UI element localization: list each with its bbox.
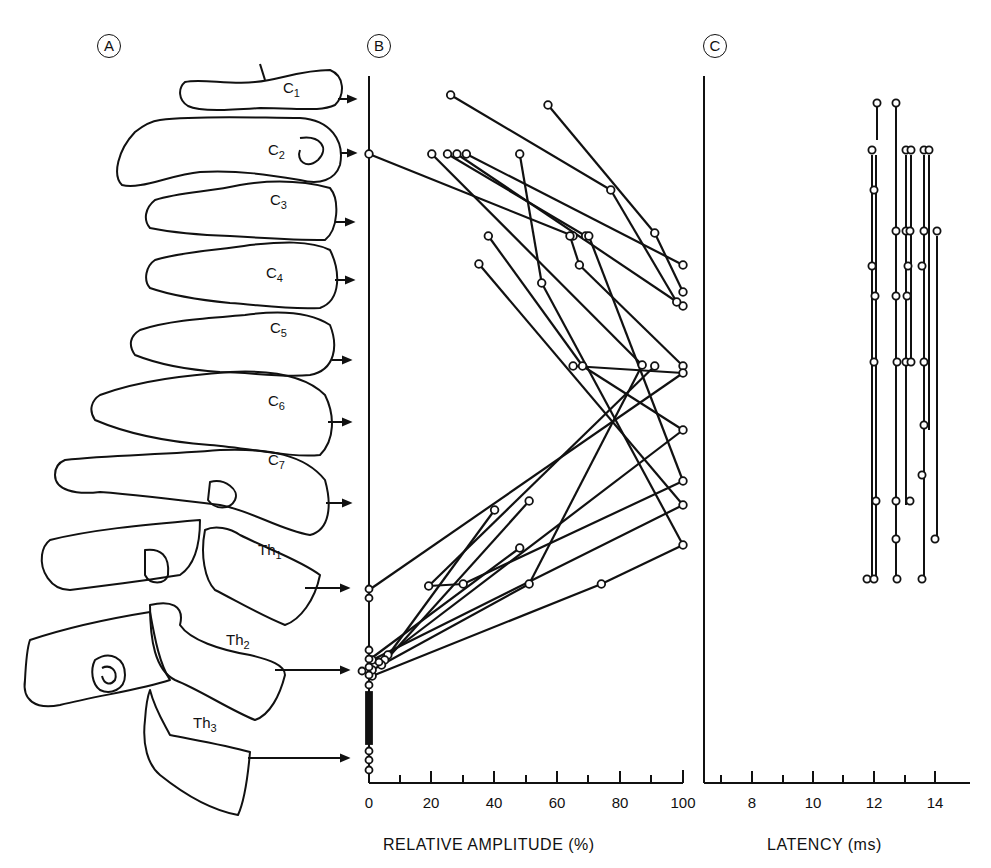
amplitude-segment bbox=[488, 236, 582, 366]
amplitude-point bbox=[679, 369, 687, 377]
amplitude-segment bbox=[579, 265, 683, 366]
amplitude-segment bbox=[548, 105, 655, 233]
amplitude-point bbox=[516, 544, 524, 552]
svg-text:0: 0 bbox=[365, 794, 373, 811]
panel-b-tick-labels: 0 20 40 60 80 100 bbox=[365, 794, 696, 811]
amplitude-axis-title: RELATIVE AMPLITUDE (%) bbox=[383, 836, 595, 854]
amplitude-point bbox=[544, 101, 552, 109]
amplitude-point bbox=[525, 497, 533, 505]
amplitude-segment bbox=[372, 584, 529, 670]
amplitude-point bbox=[651, 229, 659, 237]
amplitude-point bbox=[485, 232, 493, 240]
amplitude-point bbox=[598, 580, 606, 588]
amplitude-segment bbox=[601, 545, 683, 584]
amplitude-point bbox=[679, 261, 687, 269]
amplitude-point bbox=[447, 91, 455, 99]
panel-c-label: C bbox=[703, 34, 727, 58]
figure-canvas: C1 C2 C3 C4 C5 C6 C7 Th1 Th2 Th3 bbox=[0, 0, 991, 868]
svg-text:60: 60 bbox=[549, 794, 566, 811]
panel-b-axes bbox=[369, 76, 683, 783]
amplitude-segment bbox=[369, 373, 683, 590]
amplitude-point bbox=[679, 477, 687, 485]
amplitude-segment bbox=[429, 584, 464, 586]
amplitude-point bbox=[679, 426, 687, 434]
amplitude-segment bbox=[388, 430, 683, 655]
amplitude-point bbox=[453, 150, 461, 158]
amplitude-point bbox=[463, 150, 471, 158]
amplitude-segment bbox=[589, 236, 683, 481]
amplitude-segment bbox=[520, 154, 542, 283]
amplitude-segment bbox=[369, 548, 520, 660]
svg-text:14: 14 bbox=[927, 794, 944, 811]
amplitude-segment bbox=[542, 283, 683, 545]
amplitude-point bbox=[444, 150, 452, 158]
amplitude-point bbox=[585, 232, 593, 240]
vertebrae-drawing bbox=[25, 64, 342, 815]
svg-text:C6: C6 bbox=[268, 392, 285, 412]
panel-c-tick-labels: 8 10 12 14 bbox=[748, 794, 944, 811]
level-arrows bbox=[248, 96, 355, 761]
amplitude-segment bbox=[451, 95, 611, 190]
amplitude-segment bbox=[479, 264, 683, 505]
amplitude-point bbox=[679, 541, 687, 549]
amplitude-point bbox=[569, 362, 577, 370]
amplitude-point bbox=[491, 506, 499, 514]
svg-text:12: 12 bbox=[866, 794, 883, 811]
amplitude-point bbox=[638, 361, 646, 369]
svg-text:C1: C1 bbox=[283, 79, 300, 99]
latency-axis-title: LATENCY (ms) bbox=[767, 836, 882, 854]
svg-text:C2: C2 bbox=[268, 141, 285, 161]
amplitude-point bbox=[365, 150, 373, 158]
amplitude-points bbox=[365, 91, 687, 680]
svg-text:20: 20 bbox=[423, 794, 440, 811]
svg-text:C4: C4 bbox=[266, 264, 283, 284]
amplitude-point bbox=[566, 232, 574, 240]
amplitude-point bbox=[475, 260, 483, 268]
amplitude-point bbox=[579, 362, 587, 370]
svg-text:10: 10 bbox=[805, 794, 822, 811]
svg-text:C5: C5 bbox=[270, 319, 287, 339]
svg-text:80: 80 bbox=[612, 794, 629, 811]
amplitude-segment bbox=[611, 190, 677, 302]
amplitude-point bbox=[679, 288, 687, 296]
amplitude-segment bbox=[369, 154, 573, 236]
panel-b-label: B bbox=[367, 34, 391, 58]
svg-text:Th2: Th2 bbox=[226, 631, 250, 651]
svg-text:8: 8 bbox=[748, 794, 756, 811]
amplitude-segment bbox=[382, 501, 530, 665]
svg-text:Th1: Th1 bbox=[258, 541, 282, 561]
latency-columns bbox=[872, 107, 937, 578]
amplitude-point bbox=[679, 501, 687, 509]
amplitude-segment bbox=[457, 154, 683, 306]
amplitude-point bbox=[428, 150, 436, 158]
amplitude-point bbox=[525, 580, 533, 588]
svg-text:C3: C3 bbox=[270, 191, 287, 211]
amplitude-point bbox=[607, 186, 615, 194]
amplitude-point bbox=[425, 582, 433, 590]
svg-text:Th3: Th3 bbox=[193, 714, 217, 734]
amplitude-point bbox=[459, 580, 467, 588]
amplitude-lines bbox=[369, 95, 683, 676]
svg-text:40: 40 bbox=[486, 794, 503, 811]
svg-text:100: 100 bbox=[670, 794, 695, 811]
panel-a-label: A bbox=[97, 34, 121, 58]
amplitude-point bbox=[673, 298, 681, 306]
amplitude-point bbox=[516, 150, 524, 158]
amplitude-point bbox=[538, 279, 546, 287]
amplitude-point bbox=[576, 261, 584, 269]
panel-c-axes bbox=[704, 76, 970, 783]
amplitude-point bbox=[651, 362, 659, 370]
